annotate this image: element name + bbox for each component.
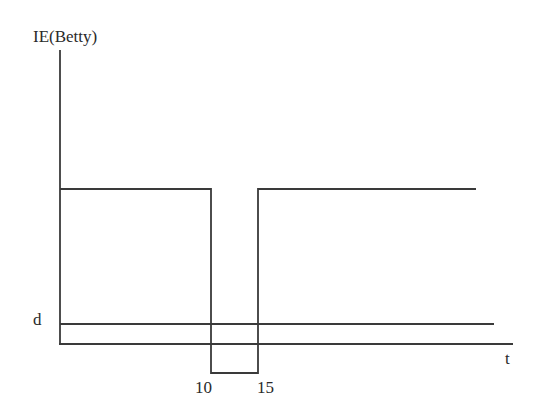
ie-betty-step-curve bbox=[60, 189, 476, 373]
tick-label-15: 15 bbox=[257, 379, 274, 396]
threshold-label-d: d bbox=[33, 311, 42, 328]
x-axis-label: t bbox=[505, 350, 510, 367]
diagram-canvas: IE(Betty) d t 10 15 bbox=[0, 0, 542, 420]
step-function-diagram bbox=[0, 0, 542, 420]
y-axis-label: IE(Betty) bbox=[33, 28, 97, 45]
tick-label-10: 10 bbox=[195, 379, 212, 396]
